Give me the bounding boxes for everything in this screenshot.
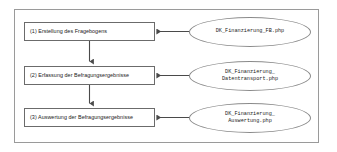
- file-node-3: DK_Finanzierung_ Auswertung.php: [189, 103, 311, 133]
- process-box-step-3-label: (3) Auswertung der Befragungsergebnisse: [30, 114, 133, 121]
- process-box-step-3: (3) Auswertung der Befragungsergebnisse: [24, 108, 155, 127]
- file-node-1: DK_Finanzierung_FB.php: [189, 17, 311, 47]
- file-node-3-line-1: DK_Finanzierung_: [225, 111, 275, 118]
- file-node-2-line-1: DK_Finanzierung_: [225, 69, 275, 76]
- process-box-step-2: (2) Erfassung der Befragungsergebnisse: [24, 66, 155, 85]
- process-box-step-1-label: (1) Erstellung des Fragebogens: [30, 28, 107, 35]
- file-node-2-line-2: Datentransport.php: [222, 76, 278, 83]
- file-node-2: DK_Finanzierung_ Datentransport.php: [189, 61, 311, 91]
- file-node-1-line-1: DK_Finanzierung_FB.php: [216, 28, 285, 35]
- process-box-step-2-label: (2) Erfassung der Befragungsergebnisse: [30, 72, 129, 79]
- flowchart-diagram: (1) Erstellung des Fragebogens (2) Erfas…: [0, 0, 337, 152]
- process-box-step-1: (1) Erstellung des Fragebogens: [24, 22, 155, 41]
- file-node-3-line-2: Auswertung.php: [228, 118, 272, 125]
